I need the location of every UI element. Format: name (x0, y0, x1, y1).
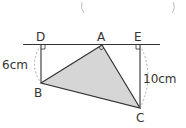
geometry-diagram: D A E B C 6cm 10cm (0, 0, 186, 128)
label-b: B (34, 86, 42, 100)
measurement-ce: 10cm (143, 72, 177, 86)
right-angle-e-icon (136, 45, 140, 50)
measure-arc-bd (35, 45, 42, 83)
right-angle-d-icon (41, 45, 45, 50)
answer-bracket-left (81, 2, 84, 13)
measurement-bd: 6cm (2, 58, 28, 72)
label-d: D (36, 30, 45, 44)
triangle-abc (41, 45, 140, 108)
label-a: A (97, 30, 106, 44)
answer-bracket-right (172, 2, 174, 13)
label-c: C (136, 111, 144, 125)
label-e: E (134, 30, 142, 44)
